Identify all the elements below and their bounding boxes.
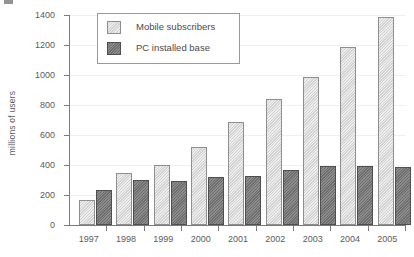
legend-swatch-icon-pc-installed-base — [107, 42, 121, 55]
y-axis-tick-label: 200 — [40, 190, 55, 200]
y-axis-tick-label: 800 — [40, 100, 55, 110]
bar-group — [264, 15, 301, 225]
x-axis-tick-label: 1999 — [142, 234, 184, 244]
y-axis-tick-label: 1000 — [35, 70, 55, 80]
bar-pc-installed-base — [133, 180, 149, 225]
x-axis-tick — [293, 226, 294, 231]
bar-mobile-subscribers — [154, 165, 170, 225]
x-axis-tick-label: 2002 — [254, 234, 296, 244]
bar-mobile-subscribers — [340, 47, 356, 225]
x-axis-tick-label: 1997 — [68, 234, 110, 244]
x-axis-tick-label: 2004 — [329, 234, 371, 244]
x-axis-tick — [144, 226, 145, 231]
bar-chart-figure: millions of users 0200400600800100012001… — [0, 0, 414, 257]
bar-pc-installed-base — [283, 170, 299, 225]
y-axis-tick-label: 1400 — [35, 10, 55, 20]
y-axis-tick-label: 400 — [40, 160, 55, 170]
x-axis-tick — [368, 226, 369, 231]
bar-group — [301, 15, 338, 225]
bar-group — [338, 15, 375, 225]
y-axis-tick-label: 600 — [40, 130, 55, 140]
x-axis-tick — [256, 226, 257, 231]
scan-artifact-mark — [4, 0, 13, 4]
legend-label-mobile-subscribers: Mobile subscribers — [136, 21, 215, 32]
bar-pc-installed-base — [357, 166, 373, 225]
bar-mobile-subscribers — [378, 17, 394, 225]
y-axis-tick-label: 1200 — [35, 40, 55, 50]
legend-swatch-icon-mobile-subscribers — [107, 21, 121, 34]
x-axis-tick — [330, 226, 331, 231]
x-axis-tick — [218, 226, 219, 231]
x-axis-tick-label: 2003 — [292, 234, 334, 244]
bar-pc-installed-base — [320, 166, 336, 225]
bar-mobile-subscribers — [266, 99, 282, 225]
bar-mobile-subscribers — [116, 173, 132, 225]
legend-label-pc-installed-base: PC installed base — [136, 42, 210, 53]
bar-pc-installed-base — [96, 190, 112, 225]
bar-group — [376, 15, 413, 225]
x-axis-tick — [181, 226, 182, 231]
x-axis-tick-label: 2000 — [180, 234, 222, 244]
bar-mobile-subscribers — [79, 200, 95, 226]
bar-mobile-subscribers — [303, 77, 319, 226]
bar-pc-installed-base — [245, 176, 261, 226]
chart-legend: Mobile subscribers PC installed base — [97, 13, 240, 64]
x-axis-tick — [106, 226, 107, 231]
y-axis-tick-label: 0 — [50, 220, 55, 230]
x-axis-tick — [405, 226, 406, 231]
x-axis-tick-label: 1998 — [105, 234, 147, 244]
bar-mobile-subscribers — [191, 147, 207, 225]
bar-pc-installed-base — [171, 181, 187, 225]
x-axis-line — [69, 225, 406, 226]
x-axis-tick-label: 2005 — [366, 234, 408, 244]
y-axis-title: millions of users — [7, 58, 17, 188]
x-axis-tick-label: 2001 — [217, 234, 259, 244]
bar-mobile-subscribers — [228, 122, 244, 225]
bar-pc-installed-base — [208, 177, 224, 225]
y-axis-tick: 0 — [64, 225, 70, 226]
bar-pc-installed-base — [395, 167, 411, 225]
